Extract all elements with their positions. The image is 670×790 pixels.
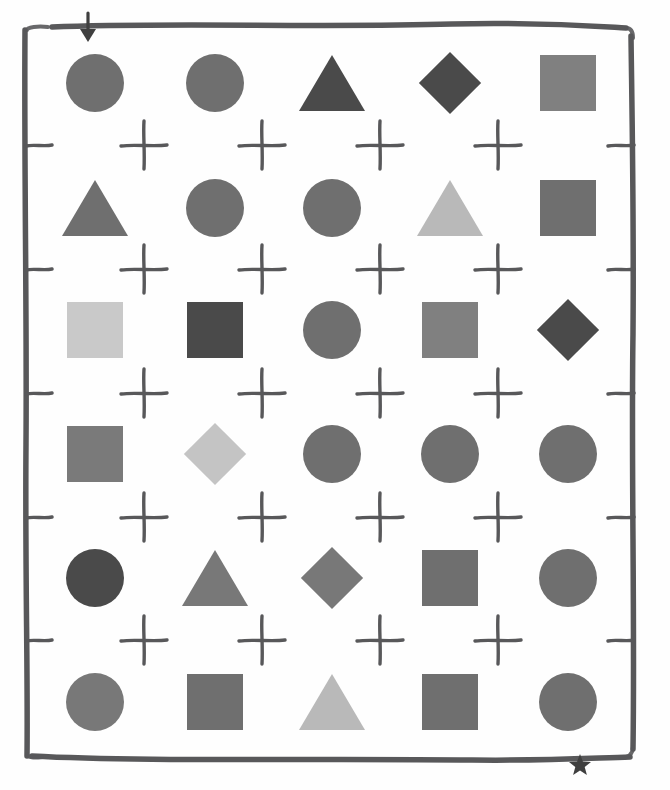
circle-shape — [186, 54, 244, 112]
diamond-shape — [301, 547, 363, 609]
circle-shape — [66, 54, 124, 112]
circle-shape — [186, 179, 244, 237]
grid-cell-r3-c1 — [52, 293, 138, 367]
square-shape — [67, 426, 123, 482]
circle-shape — [303, 179, 361, 237]
grid-cell-r4-c3 — [289, 417, 375, 491]
circle-shape — [539, 673, 597, 731]
circle-shape — [421, 425, 479, 483]
circle-shape — [303, 425, 361, 483]
circle-shape — [66, 549, 124, 607]
diamond-shape — [537, 299, 599, 361]
grid-cell-r2-c2 — [172, 171, 258, 245]
grid-cell-r5-c5 — [525, 541, 611, 615]
square-shape — [422, 302, 478, 358]
diamond-shape — [184, 423, 246, 485]
square-shape — [540, 180, 596, 236]
circle-shape — [303, 301, 361, 359]
square-shape — [422, 550, 478, 606]
circle-shape — [66, 673, 124, 731]
grid-cell-r6-c3 — [289, 665, 375, 739]
grid-cell-r2-c4 — [407, 171, 493, 245]
grid-cell-r3-c4 — [407, 293, 493, 367]
triangle-shape — [62, 180, 128, 236]
square-shape — [540, 55, 596, 111]
square-shape — [67, 302, 123, 358]
grid-cell-r4-c2 — [172, 417, 258, 491]
grid-cell-r3-c2 — [172, 293, 258, 367]
grid-cell-r6-c4 — [407, 665, 493, 739]
shape-grid-sheet — [0, 0, 670, 790]
grid-cell-r1-c2 — [172, 46, 258, 120]
shapes-grid — [0, 0, 670, 790]
grid-cell-r1-c4 — [407, 46, 493, 120]
grid-cell-r1-c1 — [52, 46, 138, 120]
grid-cell-r2-c1 — [52, 171, 138, 245]
grid-cell-r1-c3 — [289, 46, 375, 120]
grid-cell-r6-c5 — [525, 665, 611, 739]
square-shape — [187, 302, 243, 358]
square-shape — [187, 674, 243, 730]
triangle-shape — [182, 550, 248, 606]
grid-cell-r3-c3 — [289, 293, 375, 367]
grid-cell-r6-c1 — [52, 665, 138, 739]
diamond-shape — [419, 52, 481, 114]
grid-cell-r6-c2 — [172, 665, 258, 739]
circle-shape — [539, 425, 597, 483]
square-shape — [422, 674, 478, 730]
triangle-shape — [299, 674, 365, 730]
grid-cell-r5-c2 — [172, 541, 258, 615]
grid-cell-r5-c3 — [289, 541, 375, 615]
circle-shape — [539, 549, 597, 607]
triangle-shape — [299, 55, 365, 111]
grid-cell-r1-c5 — [525, 46, 611, 120]
grid-cell-r5-c4 — [407, 541, 493, 615]
grid-cell-r5-c1 — [52, 541, 138, 615]
grid-cell-r4-c1 — [52, 417, 138, 491]
grid-cell-r2-c3 — [289, 171, 375, 245]
grid-cell-r4-c5 — [525, 417, 611, 491]
triangle-shape — [417, 180, 483, 236]
grid-cell-r3-c5 — [525, 293, 611, 367]
grid-cell-r2-c5 — [525, 171, 611, 245]
grid-cell-r4-c4 — [407, 417, 493, 491]
